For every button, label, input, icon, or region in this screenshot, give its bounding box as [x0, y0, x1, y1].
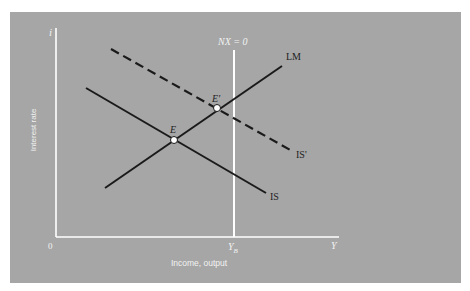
equilibrium-e-prime-point: [214, 105, 221, 112]
point-e-label: E: [169, 124, 176, 135]
is-shifted-label: IS': [296, 149, 307, 160]
lm-curve: [105, 66, 282, 188]
origin-label: 0: [48, 241, 53, 251]
y-axis-label: Interest rate: [29, 108, 38, 151]
lm-label: LM: [286, 51, 301, 62]
x-axis-symbol: Y: [331, 240, 338, 251]
x-axis-label: Income, output: [171, 258, 228, 268]
is-shifted-curve: [111, 49, 292, 151]
nx-zero-label: NX = 0: [217, 36, 248, 47]
nx-zero-label-text: NX = 0: [217, 36, 248, 47]
equilibrium-e-point: [171, 137, 178, 144]
point-e-prime-label: E': [211, 93, 221, 104]
y-axis-symbol: i: [49, 26, 52, 38]
yb-tick-label: YB: [228, 241, 239, 255]
is-label: IS: [270, 191, 279, 202]
yb-tick-subscript: B: [234, 247, 239, 255]
is-lm-diagram: i Interest rate NX = 0 LM IS' IS E E' 0 …: [0, 0, 470, 291]
